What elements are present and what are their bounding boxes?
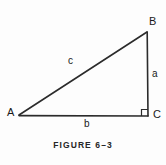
side-label-opposite: a: [152, 69, 158, 79]
right-angle-marker-icon: [142, 110, 149, 117]
figure-caption: FIGURE 6–3: [0, 140, 166, 150]
vertex-label-c: C: [153, 109, 161, 120]
side-label-adjacent: b: [84, 119, 90, 129]
figure-container: A B C c a b FIGURE 6–3: [0, 0, 166, 165]
side-hypotenuse-c: [19, 32, 147, 115]
side-vertical-a: [147, 32, 148, 116]
vertex-label-b: B: [149, 16, 156, 27]
side-label-hypotenuse: c: [68, 56, 73, 66]
vertex-label-a: A: [7, 107, 14, 118]
